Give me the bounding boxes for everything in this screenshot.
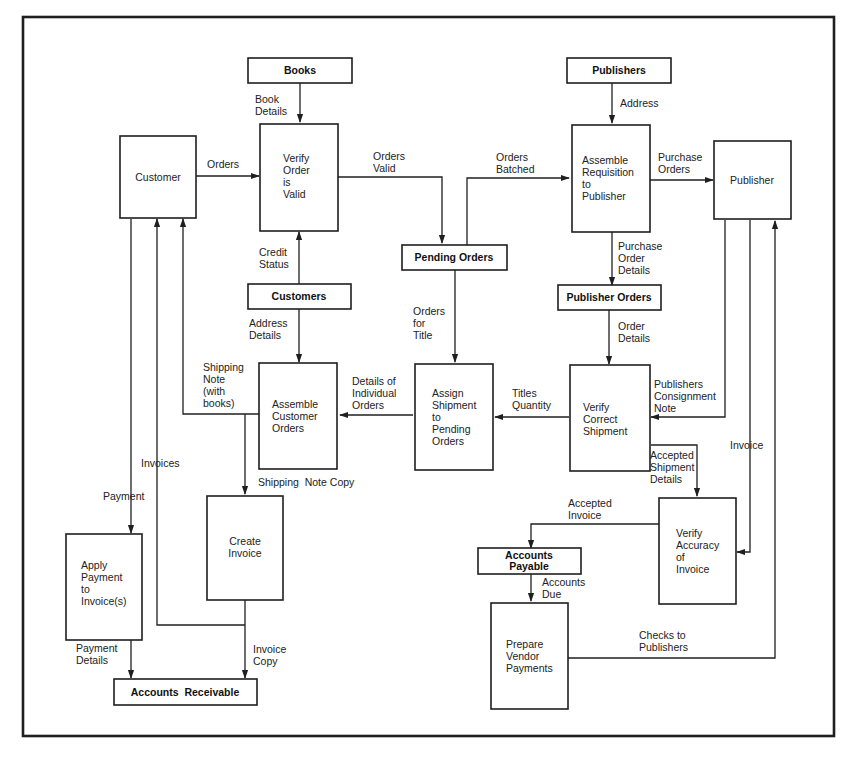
label-accepted-shipment: AcceptedShipmentDetails	[650, 449, 694, 485]
label-payment-details: PaymentDetails	[76, 642, 118, 666]
flow-orders-valid	[338, 177, 442, 243]
process-prepare-vendor-payments[interactable]: PrepareVendorPayments	[491, 603, 568, 709]
svg-text:CreateInvoice: CreateInvoice	[228, 535, 261, 559]
label-shipping-note: ShippingNote(withbooks)	[203, 361, 244, 409]
store-accounts-payable[interactable]: AccountsPayable	[478, 548, 581, 574]
label-titles-quantity: TitlesQuantity	[512, 387, 552, 411]
process-assemble-customer-orders[interactable]: AssembleCustomerOrders	[259, 363, 337, 469]
store-publisher-orders[interactable]: Publisher Orders	[558, 285, 661, 310]
process-publisher[interactable]: Publisher	[714, 141, 791, 219]
label-payment: Payment	[103, 490, 145, 502]
store-books[interactable]: Books	[248, 58, 352, 83]
label-purchase-orders: PurchaseOrders	[658, 151, 703, 175]
label-accepted-invoice: AcceptedInvoice	[568, 497, 612, 521]
label-orders-batched: OrdersBatched	[496, 151, 535, 175]
store-accounts-receivable[interactable]: Accounts Receivable	[114, 679, 257, 705]
svg-text:Books: Books	[284, 64, 316, 76]
label-credit-status: CreditStatus	[259, 246, 289, 270]
label-orders-valid: OrdersValid	[373, 150, 405, 174]
svg-text:Accounts Receivable: Accounts Receivable	[131, 686, 240, 698]
process-verify-invoice[interactable]: VerifyAccuracyofInvoice	[659, 498, 736, 604]
label-book-details: BookDetails	[255, 93, 287, 117]
process-apply-payment[interactable]: ApplyPaymenttoInvoice(s)	[66, 534, 142, 640]
process-assign-shipment[interactable]: AssignShipmenttoPendingOrders	[415, 364, 493, 470]
svg-text:Pending Orders: Pending Orders	[415, 251, 494, 263]
label-purchase-order-details: PurchaseOrderDetails	[618, 240, 663, 276]
label-consignment-note: PublishersConsignmentNote	[654, 378, 716, 414]
process-assemble-requisition[interactable]: AssembleRequisitiontoPublisher	[572, 125, 650, 232]
label-order-details: OrderDetails	[618, 320, 650, 344]
flow-orders-batched	[467, 178, 569, 245]
process-verify-shipment[interactable]: VerifyCorrectShipment	[570, 365, 650, 471]
svg-text:Publisher Orders: Publisher Orders	[566, 291, 651, 303]
label-details-individual-orders: Details ofIndividualOrders	[352, 375, 396, 411]
svg-text:Publishers: Publishers	[592, 64, 646, 76]
label-orders: Orders	[207, 158, 239, 170]
flow-accepted-invoice	[531, 524, 659, 548]
store-customers[interactable]: Customers	[248, 284, 351, 309]
label-invoice-copy: InvoiceCopy	[253, 643, 286, 667]
flow-invoice	[737, 220, 750, 552]
process-create-invoice[interactable]: CreateInvoice	[207, 496, 283, 600]
label-checks-to-publishers: Checks toPublishers	[639, 629, 688, 653]
label-shipping-note-copy: Shipping Note Copy	[258, 476, 355, 488]
label-address-details: AddressDetails	[249, 317, 288, 341]
label-invoices: Invoices	[141, 457, 180, 469]
svg-text:Customers: Customers	[272, 290, 327, 302]
label-address: Address	[620, 97, 659, 109]
svg-text:Customer: Customer	[135, 171, 181, 183]
store-publishers[interactable]: Publishers	[567, 58, 671, 83]
label-accounts-due: AccountsDue	[542, 576, 585, 600]
label-invoice: Invoice	[730, 439, 763, 451]
label-orders-for-title: OrdersforTitle	[413, 305, 445, 341]
svg-text:Publisher: Publisher	[730, 174, 774, 186]
process-verify-order[interactable]: VerifyOrderisValid	[260, 124, 338, 231]
process-customer[interactable]: Customer	[120, 136, 196, 218]
data-flow-diagram: Customer VerifyOrderisValid AssembleRequ…	[0, 0, 849, 757]
svg-text:AccountsPayable: AccountsPayable	[505, 549, 553, 572]
store-pending-orders[interactable]: Pending Orders	[402, 245, 507, 270]
